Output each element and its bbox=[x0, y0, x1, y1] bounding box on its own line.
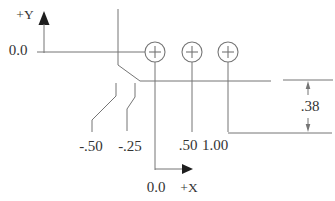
leader-neg-50 bbox=[92, 83, 116, 132]
drawing-svg: +Y 0.0 bbox=[0, 0, 335, 201]
leader-neg-25 bbox=[127, 83, 135, 131]
x-axis-arrowhead-icon bbox=[182, 164, 193, 174]
x-axis: 0.0 +X bbox=[147, 164, 198, 195]
part-chamfer-edge bbox=[118, 65, 140, 81]
hole-symbol-1 bbox=[145, 42, 165, 170]
depth-dimension-value: .38 bbox=[301, 98, 320, 114]
hole-symbol-2 bbox=[182, 42, 202, 132]
y-origin-value: 0.0 bbox=[9, 42, 28, 58]
x-axis-label: +X bbox=[180, 180, 198, 195]
x-value-neg-50: -.50 bbox=[79, 138, 103, 154]
y-axis-arrowhead-icon bbox=[39, 11, 50, 25]
depth-dimension: .38 bbox=[228, 80, 333, 133]
x-value-pos-100: 1.00 bbox=[202, 137, 228, 153]
dim-arrow-down-icon bbox=[306, 124, 311, 132]
hole-symbol-3 bbox=[218, 42, 238, 132]
y-axis: +Y 0.0 bbox=[9, 7, 145, 58]
x-value-pos-50: .50 bbox=[179, 137, 198, 153]
x-position-labels: -.50 -.25 .50 1.00 bbox=[79, 83, 228, 154]
drawing-canvas: +Y 0.0 bbox=[0, 0, 335, 201]
x-value-neg-25: -.25 bbox=[118, 138, 142, 154]
x-origin-value: 0.0 bbox=[147, 179, 166, 195]
y-axis-label: +Y bbox=[16, 7, 34, 22]
part-outline bbox=[118, 9, 271, 81]
